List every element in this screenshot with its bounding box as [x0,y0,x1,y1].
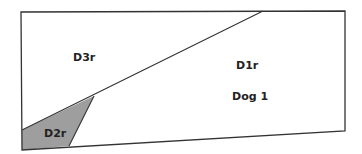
region-label-d2r: D2r [44,127,67,140]
region-d2r-fill [22,96,94,150]
region-label-d3r: D3r [73,51,96,64]
diagram-canvas: D3r D1r Dog 1 D2r [0,0,362,154]
divider-d3r-d1r [22,11,263,130]
region-label-d1r: D1r [236,59,259,72]
region-sublabel-dog1: Dog 1 [232,90,268,103]
